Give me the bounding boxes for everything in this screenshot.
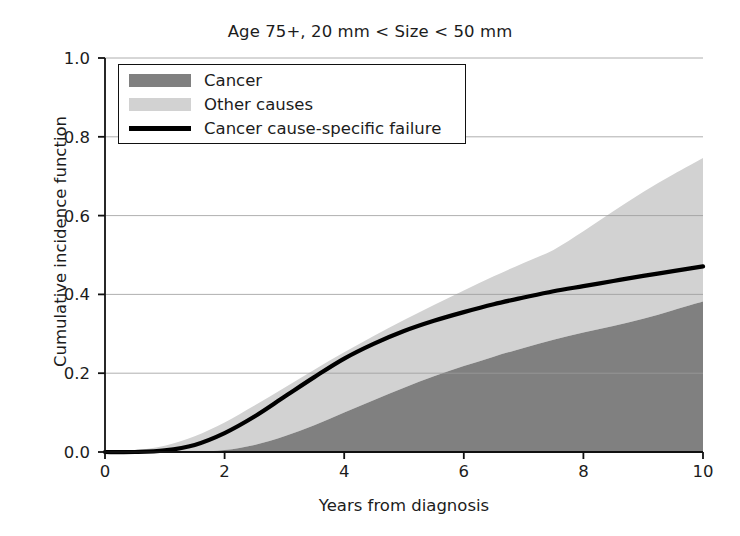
legend-item-other-causes: Other causes: [129, 92, 313, 116]
legend-line-cancer-cause-specific-failure: [129, 126, 191, 131]
legend-label-cancer-cause-specific-failure: Cancer cause-specific failure: [204, 119, 441, 138]
figure-container: Age 75+, 20 mm < Size < 50 mm Cumulative…: [0, 0, 740, 536]
legend-item-cancer: Cancer: [129, 68, 262, 92]
chart-legend: Cancer Other causes Cancer cause-specifi…: [118, 64, 466, 144]
legend-swatch-cancer: [129, 74, 191, 87]
legend-label-other-causes: Other causes: [204, 95, 313, 114]
legend-swatch-other-causes: [129, 98, 191, 111]
legend-label-cancer: Cancer: [204, 71, 262, 90]
legend-item-cancer-cause-specific-failure: Cancer cause-specific failure: [129, 116, 441, 140]
